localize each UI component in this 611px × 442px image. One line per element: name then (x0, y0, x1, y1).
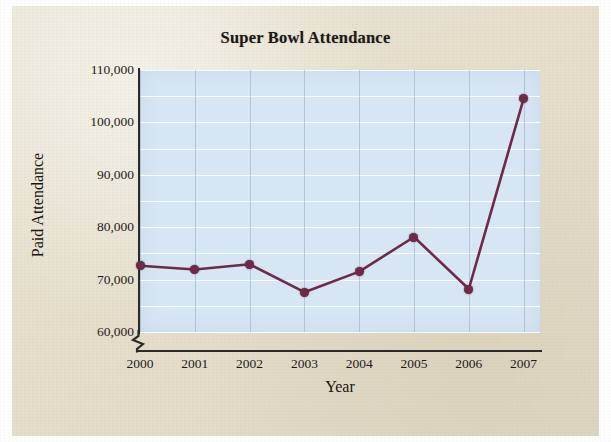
x-axis-tick-label: 2005 (384, 356, 444, 372)
x-axis-title: Year (140, 378, 540, 396)
gridline-vertical (414, 70, 415, 332)
gridline-horizontal (140, 227, 540, 228)
x-axis-tick-label: 2002 (220, 356, 280, 372)
gridline-horizontal (140, 175, 540, 176)
x-axis-tick-label: 2004 (329, 356, 389, 372)
y-axis-tick-label: 110,000 (56, 62, 134, 78)
vertical-gridlines (140, 70, 540, 332)
gridline-vertical (250, 70, 251, 332)
gridline-horizontal (140, 122, 540, 123)
y-axis-line (138, 68, 140, 334)
data-point-marker (245, 260, 254, 269)
x-axis-tick-label: 2000 (110, 356, 170, 372)
y-axis-title: Paid Attendance (29, 105, 47, 305)
x-axis-tick-label: 2006 (439, 356, 499, 372)
gridline-horizontal (140, 96, 540, 97)
data-point-marker (409, 233, 418, 242)
data-point-marker (300, 288, 309, 297)
gridline-horizontal (140, 253, 540, 254)
data-point-marker (355, 267, 364, 276)
data-point-marker (464, 285, 473, 294)
gridline-horizontal (140, 149, 540, 150)
chart-figure: Super Bowl Attendance 110,000100,00090,0… (0, 0, 611, 442)
y-axis-tick-label: 100,000 (56, 114, 134, 130)
gridline-vertical (524, 70, 525, 332)
plot-area (140, 70, 540, 332)
x-axis-tick-label: 2007 (494, 356, 554, 372)
y-axis-tick-label: 80,000 (56, 219, 134, 235)
y-axis-tick-label: 70,000 (56, 272, 134, 288)
gridline-horizontal (140, 201, 540, 202)
x-axis-line (138, 350, 542, 352)
gridline-horizontal (140, 70, 540, 71)
gridline-horizontal (140, 306, 540, 307)
horizontal-gridlines (140, 70, 540, 332)
y-axis-tick-label: 90,000 (56, 167, 134, 183)
x-axis-tick-label: 2003 (274, 356, 334, 372)
gridline-horizontal (140, 280, 540, 281)
x-axis-tick-label: 2001 (165, 356, 225, 372)
gridline-vertical (195, 70, 196, 332)
gridline-vertical (359, 70, 360, 332)
y-axis-tick-label: 60,000 (56, 324, 134, 340)
data-point-marker (136, 261, 145, 270)
y-axis-tick-labels: 110,000100,00090,00080,00070,00060,000 (52, 0, 134, 442)
